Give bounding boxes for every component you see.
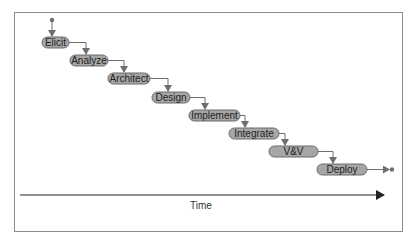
stage-node-integrate: Integrate [229,128,279,139]
stage-label: Design [155,92,186,103]
stage-label: Analyze [71,55,107,66]
stage-label: Elicit [45,37,66,48]
time-axis-label: Time [190,200,212,211]
stage-connector [190,98,205,110]
stage-connector [279,134,285,146]
connectors [50,18,394,172]
stage-node-design: Design [152,92,190,103]
stage-node-vv: V&V [269,146,318,157]
stage-node-implement: Implement [189,110,240,121]
stage-node-deploy: Deploy [317,164,367,175]
stage-label: Integrate [234,128,274,139]
stage-label: V&V [283,146,303,157]
stage-label: Architect [110,73,149,84]
stage-node-analyze: Analyze [70,55,108,66]
stage-connector [150,79,168,92]
stage-connector [240,116,245,128]
stage-label: Deploy [326,164,357,175]
stage-connector [318,152,333,164]
stage-connector [69,43,86,55]
stage-node-elicit: Elicit [42,37,69,48]
end-dot [390,167,394,171]
stage-connector [108,61,124,73]
stage-label: Implement [191,110,238,121]
start-dot [50,18,54,22]
stage-node-architect: Architect [108,73,150,84]
